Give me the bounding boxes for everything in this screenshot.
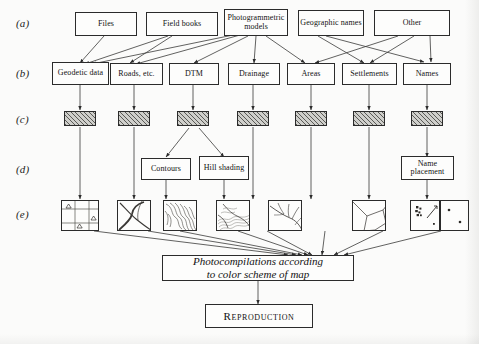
- hatch-block-areas[interactable]: [295, 111, 327, 126]
- box-dtm[interactable]: DTM: [169, 63, 219, 85]
- thumb-drainage[interactable]: [268, 200, 302, 231]
- box-geodetic-data[interactable]: Geodetic data: [52, 62, 109, 85]
- hatch-block-dtm[interactable]: [177, 111, 209, 126]
- photocompilations-line-1: Photocompilations according: [193, 255, 323, 268]
- hatch-block-roads[interactable]: [118, 111, 150, 126]
- hatch-block-names[interactable]: [411, 111, 443, 126]
- row-label-c: (c): [16, 113, 29, 125]
- box-name-placement[interactable]: Name placement: [401, 156, 454, 180]
- photocompilations-line-2: to color scheme of map: [207, 268, 310, 281]
- thumb-names[interactable]: [440, 200, 469, 231]
- hatch-block-geodetic[interactable]: [64, 111, 96, 126]
- box-settlements[interactable]: Settlements: [342, 63, 397, 85]
- hatch-block-drainage[interactable]: [237, 111, 269, 126]
- thumb-geodetic-grid[interactable]: [61, 200, 99, 231]
- row-label-d: (d): [16, 163, 29, 175]
- box-hill-shading[interactable]: Hill shading: [199, 156, 249, 180]
- row-label-a: (a): [16, 17, 29, 29]
- box-other[interactable]: Other: [374, 10, 450, 36]
- thumb-hill-shading[interactable]: [216, 200, 250, 231]
- box-photogrammetric-models[interactable]: Photogrammetric models: [224, 9, 288, 36]
- box-contours[interactable]: Contours: [141, 158, 191, 180]
- thumb-settlements[interactable]: [410, 200, 440, 231]
- box-roads-etc[interactable]: Roads, etc.: [110, 63, 163, 85]
- box-drainage[interactable]: Drainage: [228, 63, 280, 85]
- figure-canvas: (a) (b) (c) (d) (e) Files Field books Ph…: [0, 0, 479, 344]
- thumb-roads[interactable]: [117, 200, 151, 231]
- box-geographic-names[interactable]: Geographic names: [298, 10, 364, 36]
- photocompilations-box[interactable]: Photocompilations according to color sch…: [162, 255, 354, 281]
- box-areas[interactable]: Areas: [287, 63, 335, 85]
- hatch-block-settlements[interactable]: [353, 111, 385, 126]
- reproduction-box[interactable]: Reproduction: [205, 304, 313, 328]
- row-label-b: (b): [16, 67, 29, 79]
- box-files[interactable]: Files: [75, 12, 137, 36]
- box-names[interactable]: Names: [403, 63, 451, 85]
- thumb-contours[interactable]: [163, 200, 197, 231]
- box-field-books[interactable]: Field books: [146, 12, 218, 36]
- thumb-areas[interactable]: [352, 200, 386, 231]
- row-label-e: (e): [16, 208, 29, 220]
